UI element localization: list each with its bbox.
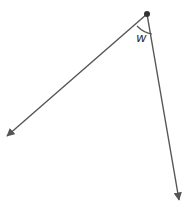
right-ray <box>147 14 179 200</box>
left-ray <box>7 14 147 136</box>
angle-label: w <box>136 31 147 44</box>
angle-diagram <box>0 0 196 216</box>
vertex-point <box>144 11 150 17</box>
